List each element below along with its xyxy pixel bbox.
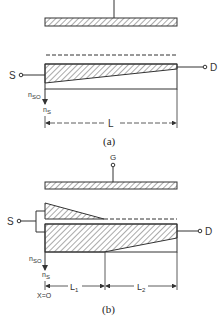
diagram-canvas: S D nSO nS L (a) G bbox=[0, 0, 222, 319]
gate-plate-a bbox=[45, 18, 177, 26]
length-label-a: L bbox=[108, 118, 114, 129]
drain-terminal-b bbox=[198, 229, 202, 233]
figure-a: S D nSO nS L (a) bbox=[9, 0, 217, 148]
source-label-b: S bbox=[7, 216, 14, 227]
drain-label-a: D bbox=[210, 62, 217, 73]
source-terminal-a bbox=[19, 73, 23, 77]
drain-label-b: D bbox=[205, 226, 212, 237]
figure-b: G S D nSO nS L1 bbox=[7, 153, 212, 316]
caption-a: (a) bbox=[103, 135, 116, 148]
ns-label-a: nS bbox=[43, 106, 51, 115]
ns-label-b: nS bbox=[42, 271, 50, 280]
drain-terminal-a bbox=[203, 65, 207, 69]
length2-label-b: L2 bbox=[137, 282, 146, 293]
gate-terminal-b bbox=[111, 163, 115, 167]
nso-label-a: nSO bbox=[28, 91, 41, 100]
origin-label-b: X=O bbox=[37, 292, 52, 299]
nso-label-b: nSO bbox=[29, 255, 42, 264]
source-label-a: S bbox=[9, 70, 16, 81]
length1-label-b: L1 bbox=[70, 282, 79, 293]
caption-b: (b) bbox=[102, 303, 115, 316]
upper-depletion-triangle-b bbox=[45, 203, 104, 219]
gate-label-b: G bbox=[110, 153, 116, 162]
gate-plate-b bbox=[45, 182, 177, 189]
source-terminal-b bbox=[17, 219, 21, 223]
